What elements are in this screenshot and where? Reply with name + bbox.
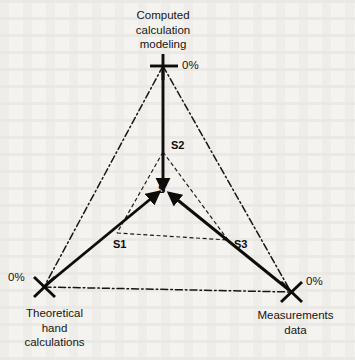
corner-label-bottom-right: Measurements data bbox=[238, 308, 353, 337]
outer-edge-bottom bbox=[44, 287, 291, 292]
node-label-s: S bbox=[158, 183, 165, 195]
corner-label-top: Computed calculation modeling bbox=[103, 8, 223, 52]
plus-marker-top bbox=[150, 54, 178, 80]
cross-marker-bottom-left bbox=[34, 277, 55, 297]
arrow-bottom-left-to-s bbox=[46, 192, 159, 285]
corner-markers bbox=[34, 54, 302, 302]
percent-label-top: 0% bbox=[182, 59, 199, 71]
percent-label-bottom-left: 0% bbox=[8, 271, 25, 283]
node-label-s2: S2 bbox=[171, 139, 184, 151]
outer-edge-top-right bbox=[163, 66, 291, 292]
percent-label-bottom-right: 0% bbox=[306, 275, 323, 287]
node-label-s1: S1 bbox=[113, 238, 126, 250]
outer-triangle bbox=[44, 66, 291, 292]
ternary-diagram-figure: Computed calculation modeling Theoretica… bbox=[0, 0, 355, 360]
outer-edge-top-left bbox=[44, 66, 163, 287]
corner-label-bottom-left: Theoretical hand calculations bbox=[2, 306, 107, 350]
arrow-bottom-right-to-s bbox=[169, 193, 289, 290]
node-label-s3: S3 bbox=[234, 238, 247, 250]
convergence-arrows bbox=[46, 68, 289, 290]
inner-edge-s1-s3 bbox=[117, 233, 228, 240]
